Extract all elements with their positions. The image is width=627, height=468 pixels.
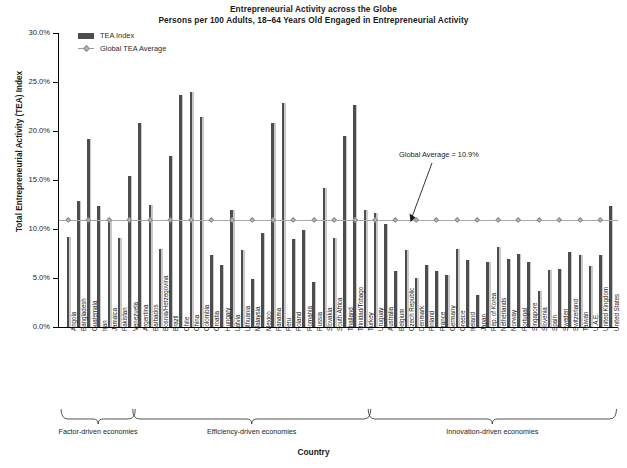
x-axis-tick-label: Spain xyxy=(551,315,558,331)
global-average-annotation: Global Average = 10.9% xyxy=(399,150,479,159)
x-axis-tick-label: United Kingdom xyxy=(602,287,609,331)
bar[interactable] xyxy=(220,265,223,327)
x-axis-tick-label: Trinidad/Tobago xyxy=(357,287,364,331)
global-average-marker xyxy=(454,217,460,223)
y-axis-tick-label: 15.0% xyxy=(4,175,50,184)
x-axis-tick-label: Slovenia xyxy=(541,307,548,331)
x-axis-tick-label: Bangladesh xyxy=(80,298,87,331)
y-axis-tick-label: 10.0% xyxy=(4,224,50,233)
chart-title-block: Entrepreneurial Activity across the Glob… xyxy=(0,4,627,26)
plot-area xyxy=(59,33,618,327)
bar[interactable] xyxy=(302,230,305,327)
x-axis-tick-label: Portugal xyxy=(521,308,528,331)
x-axis-tick-label: Slovakia xyxy=(326,308,333,331)
x-axis-title: Country xyxy=(0,447,627,457)
bar[interactable] xyxy=(538,291,541,327)
bar[interactable] xyxy=(271,123,274,327)
x-axis-tick-label: Turkey xyxy=(367,312,374,331)
global-average-marker xyxy=(331,217,337,223)
y-axis-tick-label: 5.0% xyxy=(4,273,50,282)
global-average-marker xyxy=(597,217,603,223)
bar-shadow xyxy=(284,103,286,327)
bar[interactable] xyxy=(558,269,561,327)
global-average-marker xyxy=(474,217,480,223)
global-average-line xyxy=(59,220,618,221)
bar[interactable] xyxy=(282,103,285,327)
bar[interactable] xyxy=(179,95,182,327)
global-average-marker xyxy=(495,217,501,223)
x-axis-tick-label: Peru xyxy=(285,318,292,331)
group-label: Efficiency-driven economies xyxy=(152,427,352,436)
x-axis-tick-label: Ireland xyxy=(469,312,476,331)
x-axis-tick-label: Panama xyxy=(275,308,282,331)
bar-shadow xyxy=(141,123,143,327)
x-axis-tick-label: Japan xyxy=(480,314,487,331)
x-axis-tick-label: Rep. of Korea xyxy=(490,293,497,331)
x-axis-tick-label: Sweden xyxy=(562,309,569,331)
bar[interactable] xyxy=(108,219,111,327)
x-axis-tick-label: China xyxy=(193,315,200,331)
bar[interactable] xyxy=(87,139,90,327)
x-axis-tick-label: Taiwan xyxy=(582,312,589,331)
x-axis-tick-label: Poland xyxy=(295,312,302,331)
bar[interactable] xyxy=(415,278,418,327)
x-axis-tick-label: United States xyxy=(613,294,620,331)
x-axis-tick-label: Russia xyxy=(316,312,323,331)
global-average-marker xyxy=(577,217,583,223)
bar-shadow xyxy=(192,92,194,327)
bar[interactable] xyxy=(323,188,326,327)
global-average-marker xyxy=(290,217,296,223)
bar[interactable] xyxy=(343,136,346,327)
x-axis-tick-label: Latvia xyxy=(234,314,241,331)
y-axis-tick xyxy=(53,327,59,328)
x-axis-tick-label: France xyxy=(439,312,446,331)
bar[interactable] xyxy=(435,271,438,327)
global-average-marker xyxy=(515,217,521,223)
bar[interactable] xyxy=(394,271,397,327)
x-axis-tick-label: Pakistan xyxy=(121,307,128,331)
bar[interactable] xyxy=(169,156,172,328)
bar[interactable] xyxy=(517,254,520,328)
bar[interactable] xyxy=(456,249,459,327)
x-axis-tick-label: Brazil xyxy=(172,316,179,331)
x-axis-tick-label: Guatemala xyxy=(91,301,98,331)
x-axis-tick-label: Germany xyxy=(449,305,456,331)
y-axis-title: Total Entrepreneurial Activity (TEA) Ind… xyxy=(15,12,24,292)
y-axis-tick-label: 20.0% xyxy=(4,126,50,135)
chart-root: Entrepreneurial Activity across the Glob… xyxy=(0,0,627,468)
bar[interactable] xyxy=(200,117,203,327)
x-axis-tick-label: Switzerland xyxy=(572,299,579,331)
global-average-marker xyxy=(536,217,542,223)
x-axis-tick-label: Barbados xyxy=(152,304,159,331)
bar[interactable] xyxy=(476,295,479,327)
x-axis-tick-label: Argentina xyxy=(142,304,149,331)
global-average-marker xyxy=(413,217,419,223)
x-axis-tick-label: Venezuela xyxy=(132,302,139,331)
group-label: Innovation-driven economies xyxy=(392,427,592,436)
bar[interactable] xyxy=(190,92,193,327)
x-axis-tick-label: Uruguay xyxy=(377,308,384,331)
bar[interactable] xyxy=(67,237,70,327)
global-average-marker xyxy=(434,217,440,223)
bar[interactable] xyxy=(241,250,244,327)
x-axis-tick-label: Chile xyxy=(183,317,190,331)
y-axis-tick-label: 30.0% xyxy=(4,28,50,37)
chart-title-line-2: Persons per 100 Adults, 18–64 Years Old … xyxy=(0,15,627,26)
x-axis-tick-label: Finland xyxy=(428,311,435,331)
bar-shadow xyxy=(346,136,348,327)
bar-shadow xyxy=(233,210,235,327)
bar[interactable] xyxy=(138,123,141,327)
bar-shadow xyxy=(325,188,327,327)
x-axis-tick-label: Malaysia xyxy=(254,307,261,331)
x-axis-tick-label: U.A.E. xyxy=(592,313,599,331)
chart-title-line-1: Entrepreneurial Activity across the Glob… xyxy=(0,4,627,15)
x-axis-tick-label: Jamaica xyxy=(111,308,118,331)
bar-shadow xyxy=(172,156,174,328)
bar[interactable] xyxy=(497,247,500,327)
bar[interactable] xyxy=(261,233,264,327)
x-axis-tick-label: Colombia xyxy=(203,305,210,331)
bar[interactable] xyxy=(609,206,612,327)
x-axis-tick-label: Greece xyxy=(459,311,466,331)
x-axis-tick-label: Belgium xyxy=(398,309,405,331)
bar[interactable] xyxy=(128,176,131,327)
